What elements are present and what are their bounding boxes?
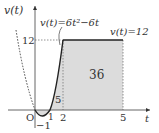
x-tick-2: 2 — [60, 112, 66, 123]
x-tick-5: 5 — [120, 112, 126, 123]
area-neg-label: −1 — [36, 120, 51, 131]
label-leader — [59, 27, 62, 45]
y-tick-12: 12 — [22, 35, 35, 46]
area-36-label: 36 — [89, 68, 104, 82]
y-axis-arrow-icon — [33, 6, 37, 10]
x-axis-arrow-icon — [146, 108, 150, 112]
y-axis-label: v(t) — [4, 4, 23, 17]
origin-label: O — [26, 112, 34, 123]
area-5-label: 5 — [55, 94, 61, 105]
x-axis-label: t — [145, 113, 150, 124]
velocity-chart: v(t) v(t)=6t²−6t v(t)=12 12 O 1 2 5 t −1… — [0, 0, 159, 133]
curve2-label: v(t)=12 — [110, 26, 149, 37]
curve1-label: v(t)=6t²−6t — [40, 17, 100, 28]
